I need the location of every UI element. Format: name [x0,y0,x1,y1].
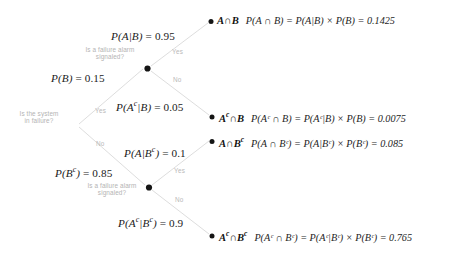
node-bc-branch-yes-label: Yes [174,167,185,174]
node-dot-b [144,65,150,71]
label-p-a-given-bc: P(A|Bc) = 0.1 [124,145,186,160]
root-question-line2: in failure? [8,117,70,124]
leaf-row-a-and-b: A∩B P(A ∩ B) = P(A|B) × P(B) = 0.1425 [217,15,395,26]
leaf-dot-ac-and-bc [210,234,215,239]
node-b-question-line1: Is a failure alarm [78,46,142,53]
leaf-set-label-ac-and-b: Ac∩B [219,110,244,124]
node-bc-question-line1: Is a failure alarm [80,182,144,189]
node-bc-branch-no-label: No [175,196,184,203]
node-dot-bc [146,184,152,190]
label-p-a-given-bc-pre: P(A|B [124,147,152,159]
leaf-set-label-a-and-bc: A∩Bc [219,135,244,149]
label-p-a-given-bc-post: ) [155,147,159,159]
node-bc-question: Is a failure alarm signaled? [80,182,144,197]
label-p-a-given-b-value: 0.95 [155,30,175,42]
label-p-bc-value: 0.85 [92,167,112,179]
label-p-bc-prob: P(B [55,167,73,179]
node-b-branch-yes-label: Yes [172,48,183,55]
label-p-a-given-bc-value: 0.1 [171,147,185,159]
leaf-formula-ac-and-bc: P(Aᶜ ∩ Bᶜ) = P(Aᶜ|Bᶜ) × P(Bᶜ) = 0.765 [254,232,412,243]
label-p-ac-given-bc-mid: |B [139,217,149,229]
label-p-a-given-b-prob: P(A|B) [111,30,143,42]
label-p-bc-close: ) [76,167,80,179]
leaf-formula-ac-and-b: P(Aᶜ ∩ B) = P(Aᶜ|B) × P(B) = 0.0075 [251,113,406,124]
root-branch-yes-label: Yes [95,107,106,114]
label-p-ac-given-bc-value: 0.9 [169,217,183,229]
node-bc-question-line2: signaled? [80,189,144,196]
leaf-set-label-ac-and-bc: Ac∩Bc [219,229,247,243]
leaf-formula-a-and-bc: P(A ∩ Bᶜ) = P(A|Bᶜ) × P(Bᶜ) = 0.085 [251,138,403,149]
label-p-a-given-b: P(A|B) = 0.95 [111,30,175,43]
label-p-a-given-bc-equals: = [162,147,168,159]
leaf-row-a-and-bc: A∩Bc P(A ∩ Bᶜ) = P(A|Bᶜ) × P(Bᶜ) = 0.085 [219,135,403,149]
label-p-ac-given-bc-equals: = [160,217,166,229]
probability-tree-diagram: Is the system in failure? Yes No Is a fa… [0,0,449,256]
leaf-formula-a-and-b: P(A ∩ B) = P(A|B) × P(B) = 0.1425 [246,15,395,26]
label-p-a-given-b-equals: = [146,30,152,42]
label-p-ac-given-bc-post: ) [153,217,157,229]
label-p-ac-given-b-equals: = [154,101,160,113]
root-question-line1: Is the system [8,110,70,117]
label-p-b-equals: = [75,72,81,84]
label-p-b-prob: P(B) [51,72,73,84]
label-p-ac-given-b-pre: P(A [116,101,134,113]
label-p-ac-given-b: P(Ac|B) = 0.05 [116,99,183,114]
label-p-ac-given-bc-pre: P(A [118,217,136,229]
leaf-dot-ac-and-b [210,115,215,120]
node-b-question-line2: signaled? [78,53,142,60]
label-p-ac-given-b-post: |B) [137,101,151,113]
leaf-row-ac-and-bc: Ac∩Bc P(Aᶜ ∩ Bᶜ) = P(Aᶜ|Bᶜ) × P(Bᶜ) = 0.… [219,229,412,243]
leaf-row-ac-and-b: Ac∩B P(Aᶜ ∩ B) = P(Aᶜ|B) × P(B) = 0.0075 [219,110,406,124]
tree-edges-canvas [0,0,449,256]
leaf-dot-a-and-b [209,19,214,24]
label-p-ac-given-bc: P(Ac|Bc) = 0.9 [118,215,183,230]
root-branch-no-label: No [96,140,105,147]
node-b-branch-no-label: No [173,76,182,83]
label-p-bc-equals: = [83,167,89,179]
leaf-dot-a-and-bc [210,139,215,144]
root-question: Is the system in failure? [8,110,70,125]
label-p-ac-given-b-value: 0.05 [163,101,183,113]
label-p-b-value: 0.15 [85,72,105,84]
label-p-bc: P(Bc) = 0.85 [55,165,112,180]
label-p-b: P(B) = 0.15 [51,72,105,85]
node-b-question: Is a failure alarm signaled? [78,46,142,61]
leaf-set-label-a-and-b: A∩B [217,15,239,26]
